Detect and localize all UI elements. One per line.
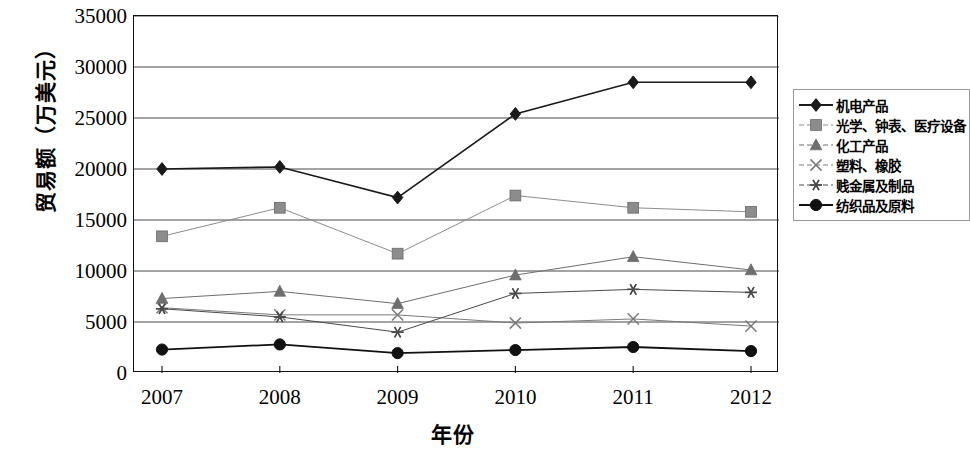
series-line xyxy=(162,289,751,332)
data-point-marker xyxy=(628,341,639,352)
series-line xyxy=(162,196,751,254)
y-tick-label: 35000 xyxy=(75,6,128,27)
data-point-marker xyxy=(510,190,521,201)
data-point-marker xyxy=(274,312,286,322)
data-point-marker xyxy=(392,348,403,359)
data-point-marker xyxy=(392,327,404,337)
data-point-marker xyxy=(627,251,639,262)
data-point-marker xyxy=(509,288,521,298)
x-tick-label: 2011 xyxy=(613,387,654,408)
chart-canvas xyxy=(134,16,779,373)
data-point-marker xyxy=(392,191,402,204)
y-tick-label: 25000 xyxy=(75,108,128,129)
series-line xyxy=(162,82,751,197)
data-point-marker xyxy=(627,284,639,294)
series-line xyxy=(162,308,751,326)
legend-item: 塑料、橡胶 xyxy=(796,155,966,175)
data-point-marker xyxy=(628,76,638,89)
legend-label: 光学、钟表、医疗设备 xyxy=(836,115,966,135)
legend-item: 化工产品 xyxy=(796,135,966,155)
chart-legend: 机电产品光学、钟表、医疗设备化工产品塑料、橡胶贱金属及制品纺织品及原料 xyxy=(793,89,970,221)
data-point-marker xyxy=(811,99,821,112)
plot-area: 05000100001500020000250003000035000 2007… xyxy=(133,15,778,372)
x-axis-title: 年份 xyxy=(333,418,573,448)
legend-symbol-circle xyxy=(796,195,836,215)
data-point-marker xyxy=(156,344,167,355)
legend-label: 机电产品 xyxy=(836,95,888,115)
x-tick-label: 2007 xyxy=(141,387,183,408)
legend-label: 贱金属及制品 xyxy=(836,175,914,195)
series-circle xyxy=(156,339,756,359)
series-triangle xyxy=(156,251,757,309)
y-tick-label: 10000 xyxy=(75,261,128,282)
legend-label: 塑料、橡胶 xyxy=(836,155,901,175)
series-cross xyxy=(156,302,756,332)
legend-symbol-cross xyxy=(796,155,836,175)
series-square xyxy=(157,190,757,259)
data-point-marker xyxy=(628,202,639,213)
data-point-marker xyxy=(510,344,521,355)
legend-item: 纺织品及原料 xyxy=(796,195,966,215)
legend-symbol-triangle xyxy=(796,135,836,155)
data-point-marker xyxy=(157,163,167,176)
y-tick-label: 20000 xyxy=(75,159,128,180)
y-tick-label: 30000 xyxy=(75,57,128,78)
data-point-marker xyxy=(392,248,403,259)
legend-symbol-square xyxy=(796,115,836,135)
data-point-marker xyxy=(746,76,756,89)
data-point-marker xyxy=(745,287,757,297)
data-point-marker xyxy=(810,199,821,210)
data-point-marker xyxy=(745,345,756,356)
legend-label: 纺织品及原料 xyxy=(836,195,914,215)
series-line xyxy=(162,257,751,304)
legend-symbol-diamond xyxy=(796,95,836,115)
data-point-marker xyxy=(746,206,757,217)
legend-symbol-star xyxy=(796,175,836,195)
data-point-marker xyxy=(274,339,285,350)
x-tick-label: 2010 xyxy=(494,387,536,408)
series-star xyxy=(156,284,757,337)
y-tick-label: 15000 xyxy=(75,210,128,231)
x-tick-label: 2012 xyxy=(730,387,772,408)
x-tick-label: 2008 xyxy=(259,387,301,408)
data-point-marker xyxy=(274,202,285,213)
series-diamond xyxy=(157,76,756,204)
legend-item: 贱金属及制品 xyxy=(796,175,966,195)
data-point-marker xyxy=(274,285,286,296)
data-point-marker xyxy=(810,180,822,190)
data-point-marker xyxy=(810,139,822,150)
y-tick-label: 5000 xyxy=(85,312,127,333)
legend-item: 光学、钟表、医疗设备 xyxy=(796,115,966,135)
legend-item: 机电产品 xyxy=(796,95,966,115)
data-point-marker xyxy=(275,161,285,174)
data-point-marker xyxy=(811,120,822,131)
y-axis-title: 贸易额（万美元） xyxy=(29,25,59,225)
series-line xyxy=(162,344,751,353)
y-tick-label: 0 xyxy=(117,363,128,384)
x-tick-label: 2009 xyxy=(377,387,419,408)
legend-label: 化工产品 xyxy=(836,135,888,155)
data-point-marker xyxy=(157,231,168,242)
